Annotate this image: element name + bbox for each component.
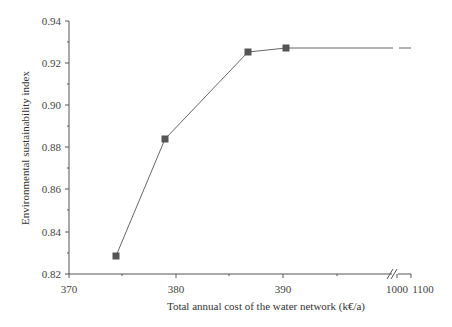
svg-text:1000: 1000 [386,283,409,295]
x-axis-title: Total annual cost of the water network (… [167,300,365,313]
svg-text:0.92: 0.92 [42,57,61,69]
data-point-marker [162,136,169,143]
svg-text:390: 390 [275,283,292,295]
data-series [113,45,412,260]
x-axis [69,269,411,279]
svg-text:380: 380 [168,283,185,295]
chart: 0.94 0.92 0.90 0.88 0.86 0.84 0.82 370 3… [0,0,452,327]
svg-text:0.88: 0.88 [42,141,62,153]
svg-text:370: 370 [61,283,78,295]
svg-text:0.94: 0.94 [42,15,62,27]
data-point-marker [283,45,290,52]
svg-text:0.84: 0.84 [42,226,62,238]
x-tick-labels: 370 380 390 1000 1100 [61,283,435,295]
y-axis-title: Environmental sustainability index [19,71,31,225]
svg-text:0.90: 0.90 [42,99,62,111]
svg-text:0.82: 0.82 [42,268,61,280]
svg-text:0.86: 0.86 [42,183,62,195]
y-tick-labels: 0.94 0.92 0.90 0.88 0.86 0.84 0.82 [42,15,62,280]
data-point-marker [245,49,252,56]
data-point-marker [113,253,120,260]
svg-text:1100: 1100 [412,283,434,295]
y-axis [65,21,69,274]
